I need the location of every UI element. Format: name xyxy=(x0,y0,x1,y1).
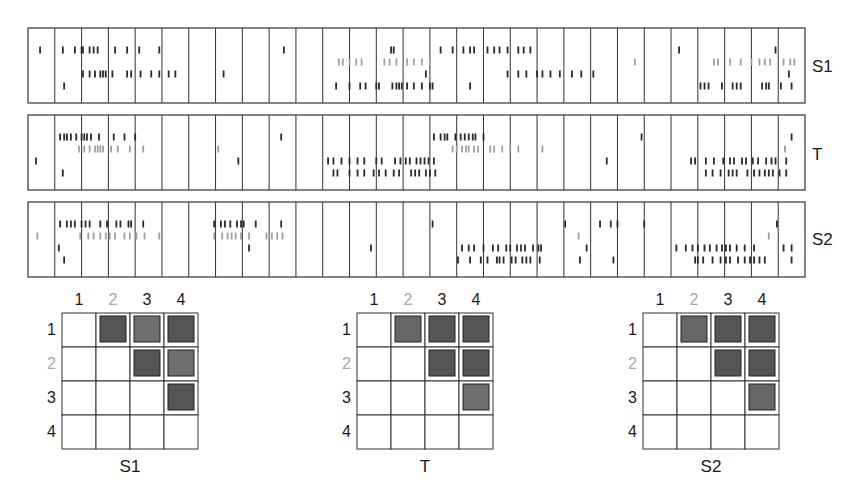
spike-neuron-4 xyxy=(363,170,365,177)
spike-neuron-1 xyxy=(390,47,392,54)
spike-neuron-4 xyxy=(396,83,398,90)
spike-neuron-3 xyxy=(82,71,84,78)
spike-neuron-4 xyxy=(761,83,763,90)
spike-neuron-1 xyxy=(776,221,778,228)
spike-neuron-2 xyxy=(109,233,111,240)
spike-neuron-4 xyxy=(469,83,471,90)
spike-neuron-2 xyxy=(493,146,495,153)
matrix-cell xyxy=(164,415,198,449)
matrix-cell xyxy=(711,381,745,415)
matrix-cell xyxy=(357,313,391,347)
row-label: 3 xyxy=(617,389,637,407)
spike-neuron-2 xyxy=(759,59,761,66)
spike-neuron-1 xyxy=(63,134,65,141)
spike-neuron-4 xyxy=(391,83,393,90)
matrix-cell xyxy=(96,381,130,415)
spike-neuron-1 xyxy=(224,221,226,228)
spike-neuron-4 xyxy=(457,257,459,264)
spike-neuron-4 xyxy=(333,170,335,177)
spike-neuron-2 xyxy=(227,233,229,240)
spike-neuron-3 xyxy=(675,245,677,252)
spike-neuron-1 xyxy=(126,47,128,54)
spike-neuron-3 xyxy=(704,245,706,252)
spike-neuron-4 xyxy=(425,170,427,177)
spike-neuron-4 xyxy=(749,257,751,264)
spike-neuron-4 xyxy=(579,257,581,264)
spike-neuron-2 xyxy=(36,233,38,240)
spike-neuron-3 xyxy=(105,71,107,78)
spike-neuron-1 xyxy=(487,47,489,54)
spike-neuron-1 xyxy=(446,134,448,141)
spike-neuron-1 xyxy=(610,221,612,228)
spike-neuron-3 xyxy=(542,71,544,78)
connection-square xyxy=(429,350,455,376)
matrix-title: S2 xyxy=(643,457,779,477)
spike-neuron-3 xyxy=(791,245,793,252)
matrix-cell xyxy=(357,347,391,381)
spike-neuron-3 xyxy=(729,158,731,165)
spike-neuron-2 xyxy=(429,59,431,66)
spike-neuron-3 xyxy=(405,158,407,165)
spike-neuron-3 xyxy=(505,245,507,252)
spike-neuron-3 xyxy=(509,245,511,252)
spike-neuron-1 xyxy=(83,134,85,141)
col-label: 3 xyxy=(130,291,164,309)
spike-neuron-2 xyxy=(231,233,233,240)
spike-neuron-2 xyxy=(248,233,250,240)
spike-neuron-3 xyxy=(483,245,485,252)
spike-neuron-3 xyxy=(559,71,561,78)
spike-neuron-2 xyxy=(783,59,785,66)
connection-square xyxy=(168,316,194,342)
spike-neuron-4 xyxy=(759,170,761,177)
spike-neuron-2 xyxy=(78,146,80,153)
raster-panel-s2 xyxy=(28,202,805,277)
spike-neuron-4 xyxy=(704,83,706,90)
spike-neuron-2 xyxy=(240,233,242,240)
spike-neuron-1 xyxy=(599,221,601,228)
spike-neuron-2 xyxy=(94,146,96,153)
spike-neuron-4 xyxy=(740,83,742,90)
matrix-cell xyxy=(62,415,96,449)
spike-neuron-4 xyxy=(337,170,339,177)
spike-neuron-2 xyxy=(768,233,770,240)
spike-neuron-3 xyxy=(327,158,329,165)
spike-neuron-1 xyxy=(114,47,116,54)
spike-neuron-4 xyxy=(63,257,65,264)
matrix-cell xyxy=(62,313,96,347)
panel-label-t: T xyxy=(812,145,822,165)
spike-neuron-4 xyxy=(744,257,746,264)
spike-neuron-1 xyxy=(99,221,101,228)
spike-neuron-1 xyxy=(460,134,462,141)
spike-neuron-1 xyxy=(255,221,257,228)
spike-neuron-2 xyxy=(99,146,101,153)
spike-neuron-3 xyxy=(550,71,552,78)
spike-neuron-1 xyxy=(283,47,285,54)
spike-neuron-2 xyxy=(509,146,511,153)
spike-neuron-3 xyxy=(692,245,694,252)
connection-square xyxy=(749,316,775,342)
spike-neuron-3 xyxy=(540,245,542,252)
row-label: 2 xyxy=(617,355,637,373)
spike-neuron-4 xyxy=(712,170,714,177)
spike-neuron-1 xyxy=(433,134,435,141)
spike-neuron-1 xyxy=(62,47,64,54)
spike-neuron-4 xyxy=(759,257,761,264)
spike-neuron-4 xyxy=(613,257,615,264)
spike-neuron-3 xyxy=(721,245,723,252)
spike-neuron-1 xyxy=(74,47,76,54)
spike-neuron-3 xyxy=(788,71,790,78)
spike-neuron-3 xyxy=(580,71,582,78)
spike-neuron-4 xyxy=(418,170,420,177)
spike-neuron-1 xyxy=(243,221,245,228)
spike-neuron-2 xyxy=(129,146,131,153)
spike-neuron-3 xyxy=(785,158,787,165)
matrix-cell xyxy=(643,313,677,347)
spike-neuron-1 xyxy=(280,134,282,141)
spike-neuron-4 xyxy=(401,83,403,90)
spike-neuron-3 xyxy=(416,158,418,165)
spike-neuron-2 xyxy=(87,233,89,240)
spike-neuron-3 xyxy=(420,158,422,165)
spike-neuron-4 xyxy=(772,170,774,177)
spike-neuron-4 xyxy=(378,170,380,177)
col-label: 2 xyxy=(391,291,425,309)
